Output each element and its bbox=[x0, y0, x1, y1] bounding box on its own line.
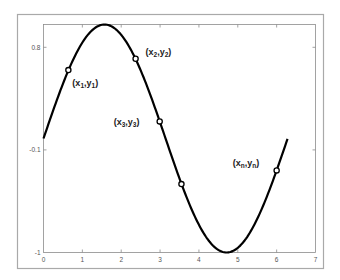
data-point-marker bbox=[133, 56, 138, 61]
data-point-label: (x2,y2) bbox=[146, 47, 172, 58]
data-point-marker bbox=[66, 68, 71, 73]
y-tick-label: 0.8 bbox=[31, 44, 40, 51]
x-tick-label: 2 bbox=[119, 256, 123, 263]
data-point-marker bbox=[179, 182, 184, 187]
x-tick-label: 4 bbox=[197, 256, 201, 263]
x-tick-label: 0 bbox=[42, 256, 46, 263]
sine-chart: 01234567 0.8-0.1-1 (x1,y1)(x2,y2)(x3,y3)… bbox=[0, 0, 340, 280]
axes-box bbox=[44, 25, 316, 253]
x-tick-label: 3 bbox=[158, 256, 162, 263]
data-point-label: (xn,yn) bbox=[233, 158, 260, 169]
y-tick-label: -0.1 bbox=[29, 146, 41, 153]
x-tick-label: 5 bbox=[236, 256, 240, 263]
y-tick-label: -1 bbox=[35, 249, 41, 256]
data-point-marker bbox=[274, 168, 279, 173]
data-point-label: (x1,y1) bbox=[72, 78, 98, 89]
x-tick-label: 6 bbox=[275, 256, 279, 263]
data-point-label: (x3,y3) bbox=[114, 117, 140, 128]
x-tick-label: 1 bbox=[81, 256, 85, 263]
x-tick-label: 7 bbox=[314, 256, 318, 263]
data-point-marker bbox=[157, 119, 162, 124]
